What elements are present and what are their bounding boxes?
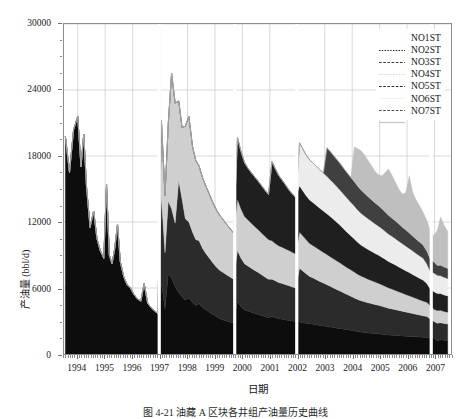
y-axis-minor-tick [60, 272, 62, 273]
x-axis-minor-tick [378, 355, 379, 358]
x-axis-minor-tick [240, 355, 241, 358]
x-axis-minor-tick [389, 355, 390, 358]
y-axis-minor-tick [60, 206, 62, 207]
x-axis-minor-tick [79, 355, 80, 358]
x-axis-minor-tick [412, 355, 413, 358]
legend-swatch-icon [379, 62, 405, 63]
y-axis-label-box: 产油量 (bbl/d) [6, 120, 28, 220]
y-axis-minor-tick [60, 56, 62, 57]
x-axis-tick-mark [408, 355, 409, 359]
x-axis-minor-tick [383, 355, 384, 358]
y-axis-tick-mark [58, 355, 62, 356]
x-axis-minor-tick [295, 355, 296, 358]
x-axis-tick-mark [215, 355, 216, 359]
x-axis-minor-tick [114, 355, 115, 358]
x-axis-tick-label: 1998 [178, 363, 197, 373]
legend-item-no2st[interactable]: NO2ST [379, 44, 441, 56]
x-axis-minor-tick [343, 355, 344, 358]
x-axis-minor-tick [284, 355, 285, 358]
x-axis-minor-tick [275, 355, 276, 358]
x-axis-minor-tick [120, 355, 121, 358]
x-axis-minor-tick [442, 355, 443, 358]
x-axis-minor-tick [346, 355, 347, 358]
x-axis-minor-tick [373, 355, 374, 358]
y-axis-minor-tick [60, 123, 62, 124]
y-axis-minor-tick [60, 338, 62, 339]
x-axis-minor-tick [399, 355, 400, 358]
x-axis-minor-tick [304, 355, 305, 358]
legend-item-no5st[interactable]: NO5ST [379, 80, 441, 92]
x-axis-minor-tick [318, 355, 319, 358]
x-axis-tick-mark [325, 355, 326, 359]
y-axis-label: 产油量 (bbl/d) [17, 220, 32, 340]
x-axis-minor-tick [355, 355, 356, 358]
x-axis-minor-tick [445, 355, 446, 358]
x-axis-minor-tick [277, 355, 278, 358]
x-axis-tick-label: 2003 [316, 363, 335, 373]
x-axis-minor-tick [81, 355, 82, 358]
x-axis-minor-tick [316, 355, 317, 358]
x-axis-minor-tick [362, 355, 363, 358]
x-axis-minor-tick [143, 355, 144, 358]
x-axis-minor-tick [320, 355, 321, 358]
y-axis-minor-tick [60, 73, 62, 74]
x-axis-minor-tick [311, 355, 312, 358]
legend-item-no3st[interactable]: NO3ST [379, 56, 441, 68]
x-axis-minor-tick [137, 355, 138, 358]
x-axis-minor-tick [88, 355, 89, 358]
x-axis-minor-tick [153, 355, 154, 358]
x-axis-tick-label: 1994 [67, 363, 86, 373]
legend-item-no6st[interactable]: NO6ST [379, 92, 441, 104]
y-axis-minor-tick [60, 189, 62, 190]
x-axis-minor-tick [238, 355, 239, 358]
x-axis-minor-tick [173, 355, 174, 358]
x-axis-minor-tick [226, 355, 227, 358]
x-axis-minor-tick [406, 355, 407, 358]
legend-label: NO5ST [411, 81, 441, 91]
legend-item-no4st[interactable]: NO4ST [379, 68, 441, 80]
x-axis-minor-tick [265, 355, 266, 358]
x-axis-minor-tick [180, 355, 181, 358]
x-axis-minor-tick [109, 355, 110, 358]
legend-item-no7st[interactable]: NO7ST [379, 105, 441, 117]
legend-swatch-icon [379, 74, 405, 75]
legend-swatch-icon [379, 98, 405, 99]
x-axis-tick-label: 2002 [288, 363, 307, 373]
x-axis-minor-tick [199, 355, 200, 358]
x-axis-minor-tick [68, 355, 69, 358]
x-axis-minor-tick [95, 355, 96, 358]
y-axis-tick-mark [58, 89, 62, 90]
x-axis-minor-tick [401, 355, 402, 358]
x-axis-tick-mark [187, 355, 188, 359]
x-axis-minor-tick [327, 355, 328, 358]
x-axis-minor-tick [210, 355, 211, 358]
x-axis-minor-tick [293, 355, 294, 358]
x-axis-minor-tick [130, 355, 131, 358]
x-axis-minor-tick [224, 355, 225, 358]
x-axis-minor-tick [192, 355, 193, 358]
x-axis-minor-tick [203, 355, 204, 358]
x-axis-minor-tick [281, 355, 282, 358]
x-axis-tick-label: 1995 [95, 363, 114, 373]
x-axis-minor-tick [155, 355, 156, 358]
x-axis-minor-tick [150, 355, 151, 358]
x-axis-minor-tick [268, 355, 269, 358]
y-axis-tick-mark [58, 156, 62, 157]
x-axis-minor-tick [314, 355, 315, 358]
x-axis-minor-tick [148, 355, 149, 358]
x-axis-minor-tick [438, 355, 439, 358]
y-axis-tick-label: 30000 [27, 18, 58, 28]
x-axis-minor-tick [178, 355, 179, 358]
y-axis-tick-label: 24000 [27, 84, 58, 94]
x-axis-minor-tick [396, 355, 397, 358]
y-axis-tick-label: 0 [46, 350, 58, 360]
legend[interactable]: NO1STNO2STNO3STNO4STNO5STNO6STNO7ST [376, 29, 445, 120]
x-axis-minor-tick [231, 355, 232, 358]
x-axis-minor-tick [217, 355, 218, 358]
plot-area: NO1STNO2STNO3STNO4STNO5STNO6STNO7ST [63, 23, 452, 355]
x-axis-minor-tick [334, 355, 335, 358]
x-axis-minor-tick [415, 355, 416, 358]
x-axis-minor-tick [176, 355, 177, 358]
x-axis-minor-tick [70, 355, 71, 358]
legend-item-no1st[interactable]: NO1ST [379, 32, 441, 44]
